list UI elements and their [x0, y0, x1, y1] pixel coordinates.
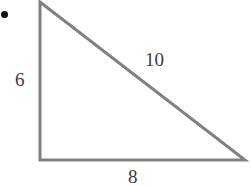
figure-canvas: 6 10 8: [0, 0, 251, 186]
side-label-horizontal-leg: 8: [128, 167, 138, 186]
side-label-hypotenuse: 10: [145, 50, 164, 69]
right-triangle-shape: [0, 0, 251, 186]
triangle-outline: [40, 2, 245, 160]
side-label-vertical-leg: 6: [15, 70, 25, 89]
